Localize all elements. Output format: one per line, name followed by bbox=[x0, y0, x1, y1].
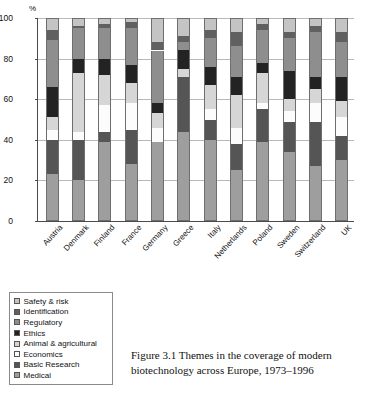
segment-economics bbox=[335, 117, 348, 135]
legend-item-medical[interactable]: Medical bbox=[14, 370, 109, 381]
x-tick-label-uk: UK bbox=[340, 223, 354, 237]
legend-swatch-icon bbox=[14, 372, 20, 378]
segment-identification bbox=[309, 26, 322, 32]
segment-safety-risk bbox=[309, 18, 322, 26]
segment-safety-risk bbox=[72, 18, 85, 26]
segment-regulatory bbox=[309, 32, 322, 77]
legend-label: Identification bbox=[24, 307, 69, 316]
segment-medical bbox=[256, 142, 269, 221]
gridline-0 bbox=[38, 221, 354, 222]
bar-uk bbox=[335, 18, 348, 221]
segment-safety-risk bbox=[125, 18, 138, 22]
legend-item-regulatory[interactable]: Regulatory bbox=[14, 317, 109, 328]
segment-safety-risk bbox=[335, 18, 348, 32]
segment-basic-research bbox=[256, 109, 269, 141]
bar-group bbox=[38, 18, 354, 221]
segment-animal-agricultural bbox=[204, 85, 217, 109]
bar-austria bbox=[46, 18, 59, 221]
y-tick-label-100: 100 bbox=[0, 14, 13, 23]
segment-basic-research bbox=[72, 140, 85, 181]
x-tick-label-germany: Germany bbox=[141, 223, 170, 253]
y-axis-unit-label: % bbox=[29, 4, 36, 13]
segment-medical bbox=[125, 164, 138, 221]
bar-greece bbox=[177, 18, 190, 221]
segment-ethics bbox=[46, 87, 59, 117]
segment-medical bbox=[230, 170, 243, 221]
bar-germany bbox=[151, 18, 164, 221]
segment-identification bbox=[98, 24, 111, 28]
segment-animal-agricultural bbox=[151, 113, 164, 127]
x-tick-label-italy: Italy bbox=[206, 223, 223, 240]
segment-medical bbox=[309, 166, 322, 221]
legend-swatch-icon bbox=[14, 362, 20, 368]
segment-basic-research bbox=[46, 140, 59, 175]
segment-regulatory bbox=[177, 42, 190, 50]
segment-ethics bbox=[230, 77, 243, 95]
legend-label: Safety & risk bbox=[24, 297, 69, 306]
segment-ethics bbox=[125, 65, 138, 83]
segment-ethics bbox=[98, 59, 111, 75]
x-tick-label-denmark: Denmark bbox=[62, 223, 91, 253]
segment-medical bbox=[72, 180, 85, 221]
legend-item-economics[interactable]: Economics bbox=[14, 349, 109, 360]
bar-france bbox=[125, 18, 138, 221]
x-tick-label-france: France bbox=[120, 223, 144, 247]
y-tick-label-80: 80 bbox=[0, 55, 13, 64]
segment-ethics bbox=[204, 67, 217, 85]
x-axis-labels: AustriaDenmarkFinlandFranceGermanyGreece… bbox=[37, 223, 357, 283]
segment-medical bbox=[335, 160, 348, 221]
segment-basic-research bbox=[177, 77, 190, 132]
legend-label: Regulatory bbox=[24, 318, 63, 327]
segment-regulatory bbox=[283, 38, 296, 70]
segment-basic-research bbox=[204, 120, 217, 140]
legend-label: Animal & agricultural bbox=[24, 339, 97, 348]
legend-item-ethics[interactable]: Ethics bbox=[14, 328, 109, 339]
segment-regulatory bbox=[98, 28, 111, 58]
segment-medical bbox=[204, 140, 217, 221]
segment-economics bbox=[46, 130, 59, 140]
segment-identification bbox=[151, 42, 164, 50]
legend-item-safety-risk[interactable]: Safety & risk bbox=[14, 296, 109, 307]
legend-label: Medical bbox=[24, 371, 52, 380]
legend-label: Economics bbox=[24, 350, 63, 359]
segment-safety-risk bbox=[46, 18, 59, 30]
y-tick-mark-0 bbox=[35, 221, 39, 222]
segment-animal-agricultural bbox=[256, 73, 269, 103]
segment-ethics bbox=[256, 63, 269, 73]
segment-animal-agricultural bbox=[177, 69, 190, 77]
bar-sweden bbox=[283, 18, 296, 221]
segment-basic-research bbox=[98, 132, 111, 142]
segment-regulatory bbox=[204, 38, 217, 66]
segment-identification bbox=[335, 32, 348, 42]
segment-economics bbox=[283, 111, 296, 121]
legend-swatch-icon bbox=[14, 319, 20, 325]
segment-economics bbox=[98, 105, 111, 131]
segment-regulatory bbox=[256, 30, 269, 62]
segment-identification bbox=[204, 30, 217, 38]
segment-identification bbox=[46, 30, 59, 40]
y-tick-label-60: 60 bbox=[0, 95, 13, 104]
y-tick-label-0: 0 bbox=[0, 217, 13, 226]
segment-safety-risk bbox=[256, 18, 269, 24]
segment-economics bbox=[125, 103, 138, 129]
segment-economics bbox=[151, 128, 164, 142]
bar-finland bbox=[98, 18, 111, 221]
stacked-bar-chart: % 020406080100 AustriaDenmarkFinlandFran… bbox=[0, 0, 371, 250]
caption-line-1: Figure 3.1 Themes in the coverage of mod… bbox=[131, 348, 367, 363]
segment-animal-agricultural bbox=[72, 73, 85, 132]
legend-item-animal-agricultural[interactable]: Animal & agricultural bbox=[14, 338, 109, 349]
segment-ethics bbox=[72, 59, 85, 73]
bar-netherlands bbox=[230, 18, 243, 221]
legend-item-basic-research[interactable]: Basic Research bbox=[14, 360, 109, 371]
segment-basic-research bbox=[283, 122, 296, 152]
segment-economics bbox=[309, 103, 322, 121]
segment-identification bbox=[177, 36, 190, 42]
bar-switzerland bbox=[309, 18, 322, 221]
segment-regulatory bbox=[46, 40, 59, 87]
segment-safety-risk bbox=[151, 18, 164, 42]
legend-item-identification[interactable]: Identification bbox=[14, 307, 109, 318]
segment-identification bbox=[125, 22, 138, 28]
segment-medical bbox=[177, 132, 190, 221]
figure-caption: Figure 3.1 Themes in the coverage of mod… bbox=[131, 348, 367, 377]
segment-identification bbox=[230, 32, 243, 46]
